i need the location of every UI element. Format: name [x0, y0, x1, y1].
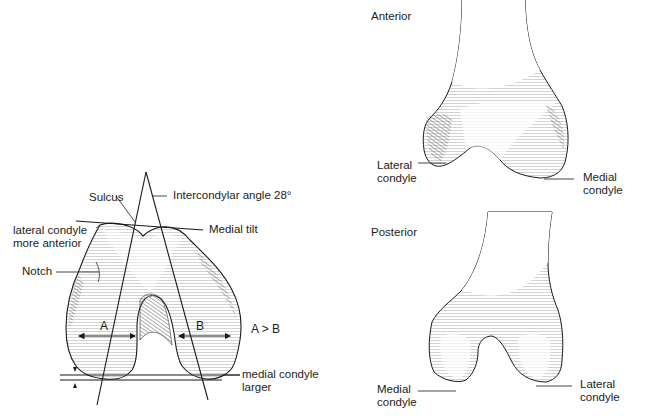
posterior-lateral-condyle-label-2: condyle: [580, 391, 620, 404]
intercondylar-angle-label: Intercondylar angle 28°: [173, 189, 291, 202]
lateral-condyle-anterior-label-1: lateral condyle: [13, 224, 87, 237]
width-b-label: B: [196, 320, 204, 333]
sulcus-label: Sulcus: [89, 191, 124, 204]
posterior-medial-condyle-label-2: condyle: [377, 396, 417, 409]
height-difference-arrows: [73, 367, 77, 388]
posterior-lateral-condyle-label-1: Lateral: [580, 378, 615, 391]
anterior-lateral-condyle-label-2: condyle: [377, 172, 417, 185]
femur-illustrations: [0, 0, 645, 416]
medial-tilt-label: Medial tilt: [209, 223, 258, 236]
anterior-femur-drawing: [418, 0, 574, 179]
anterior-medial-condyle-label-2: condyle: [583, 184, 623, 197]
anterior-medial-condyle-label-1: Medial: [583, 171, 617, 184]
medial-condyle-larger-label-1: medial condyle: [242, 368, 319, 381]
lateral-condyle-anterior-label-2: more anterior: [13, 237, 81, 250]
notch-label: Notch: [22, 265, 52, 278]
axial-femur-drawing: [66, 223, 241, 379]
width-a-label: A: [100, 320, 108, 333]
anterior-title: Anterior: [371, 10, 411, 22]
a-greater-b-label: A > B: [251, 323, 280, 336]
medial-condyle-larger-label-2: larger: [242, 381, 271, 394]
posterior-title: Posterior: [371, 226, 417, 238]
posterior-medial-condyle-label-1: Medial: [377, 383, 411, 396]
anterior-lateral-condyle-label-1: Lateral: [377, 159, 412, 172]
posterior-femur-drawing: [418, 212, 572, 391]
